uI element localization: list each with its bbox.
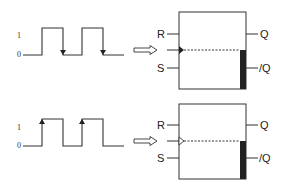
level-low-label: 0: [17, 141, 21, 150]
input-s-label: S: [157, 62, 164, 74]
bottom-diagram: 1 0 R S Q /Q: [17, 104, 271, 179]
clock-waveform: [23, 119, 124, 146]
input-s-label: S: [157, 152, 164, 164]
output-qbar-label: /Q: [259, 152, 271, 164]
bottom-flipflop: R S Q /Q: [157, 104, 271, 179]
falling-edge-arrow-icon: [60, 50, 66, 55]
top-waveform: 1 0: [17, 28, 124, 59]
output-q-label: Q: [260, 119, 269, 131]
rising-edge-arrow-icon: [39, 119, 45, 124]
falling-edge-arrow-icon: [100, 50, 106, 55]
state-bar: [240, 141, 246, 179]
level-low-label: 0: [17, 50, 21, 59]
output-q-label: Q: [260, 28, 269, 40]
input-arrow-icon: [134, 137, 157, 146]
level-high-label: 1: [17, 123, 21, 132]
input-r-label: R: [157, 28, 165, 40]
input-arrow-icon: [134, 46, 157, 55]
bottom-waveform: 1 0: [17, 119, 124, 150]
rising-edge-arrow-icon: [79, 119, 85, 124]
state-bar: [240, 50, 246, 89]
output-qbar-label: /Q: [259, 62, 271, 74]
top-flipflop: R S Q /Q: [157, 12, 271, 89]
flipflop-diagram: 1 0 R S Q /Q 1 0: [0, 0, 288, 185]
clock-waveform: [23, 28, 124, 55]
top-diagram: 1 0 R S Q /Q: [17, 12, 271, 89]
level-high-label: 1: [17, 31, 21, 40]
input-r-label: R: [157, 119, 165, 131]
